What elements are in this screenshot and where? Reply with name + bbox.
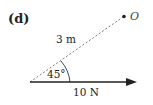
point-o-dot bbox=[122, 15, 126, 19]
force-moment-diagram: (d) O 3 m 45° 10 N bbox=[0, 0, 153, 105]
distance-label: 3 m bbox=[56, 34, 76, 45]
arrowhead-icon bbox=[126, 78, 137, 86]
angle-label: 45° bbox=[47, 69, 66, 80]
force-label: 10 N bbox=[73, 87, 99, 98]
part-label: (d) bbox=[8, 12, 29, 25]
dashed-distance-line bbox=[30, 17, 123, 82]
point-o-label: O bbox=[130, 11, 139, 22]
